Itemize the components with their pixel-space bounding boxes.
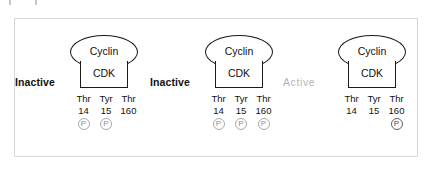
phosphate-icon: P (235, 118, 247, 130)
residue-tyr15: Tyr 15 P (231, 93, 252, 132)
residue-number: 160 (386, 105, 407, 116)
residue-thr160: Thr 160 P (118, 93, 139, 132)
cdk-label: CDK (349, 67, 395, 79)
phosphate-slot: P (118, 118, 139, 132)
cyclin-label: Cyclin (71, 45, 137, 57)
residue-name: Thr (386, 93, 407, 104)
phosphate-slot: P (208, 118, 229, 132)
phosphate-slot: P (341, 118, 362, 132)
cdk-shape: CDK (215, 61, 263, 88)
residue-row: Thr 14 P Tyr 15 P Thr 160 P (73, 93, 139, 132)
residue-thr14: Thr 14 P (73, 93, 94, 132)
scan-artifacts (0, 0, 425, 8)
residue-name: Thr (253, 93, 274, 104)
activity-state-label: Active (283, 76, 345, 88)
residue-number: 14 (73, 105, 94, 116)
residue-tyr15: Tyr 15 P (96, 93, 117, 132)
residue-name: Thr (73, 93, 94, 104)
activity-state-label: Inactive (150, 76, 212, 88)
phosphate-icon: P (258, 118, 270, 130)
phosphate-slot: P (253, 118, 274, 132)
residue-name: Tyr (96, 93, 117, 104)
phosphate-icon: P (100, 118, 112, 130)
scan-artifact-mark (9, 0, 11, 5)
cdk-label: CDK (216, 67, 262, 79)
phosphate-slot: P (386, 118, 407, 132)
cyclin-label: Cyclin (206, 45, 272, 57)
cdk-cyclin-complex: Inactive Cyclin CDK Thr 14 P Tyr 15 P (15, 19, 155, 158)
cdk-shape: CDK (80, 61, 128, 88)
phosphate-slot: P (96, 118, 117, 132)
residue-thr14: Thr 14 P (341, 93, 362, 132)
cdk-shape: CDK (348, 61, 396, 88)
residue-number: 14 (208, 105, 229, 116)
phosphate-slot: P (231, 118, 252, 132)
residue-tyr15: Tyr 15 P (364, 93, 385, 132)
residue-number: 160 (118, 105, 139, 116)
cdk-label: CDK (81, 67, 127, 79)
residue-number: 15 (231, 105, 252, 116)
residue-thr14: Thr 14 P (208, 93, 229, 132)
residue-number: 14 (341, 105, 362, 116)
residue-number: 15 (96, 105, 117, 116)
scan-artifact-mark (35, 0, 37, 5)
phosphate-slot: P (73, 118, 94, 132)
phosphate-icon: P (391, 118, 403, 130)
residue-row: Thr 14 P Tyr 15 P Thr 160 P (341, 93, 407, 132)
residue-name: Thr (118, 93, 139, 104)
residue-number: 160 (253, 105, 274, 116)
phosphate-icon: P (213, 118, 225, 130)
residue-name: Tyr (231, 93, 252, 104)
cdk-cyclin-complex: Inactive Cyclin CDK Thr 14 P Tyr 15 P (150, 19, 290, 158)
residue-name: Thr (341, 93, 362, 104)
phosphate-slot: P (364, 118, 385, 132)
residue-name: Tyr (364, 93, 385, 104)
residue-thr160: Thr 160 P (386, 93, 407, 132)
figure-frame: Inactive Cyclin CDK Thr 14 P Tyr 15 P (14, 18, 418, 157)
residue-name: Thr (208, 93, 229, 104)
phosphate-icon: P (78, 118, 90, 130)
cdk-cyclin-complex: Active Cyclin CDK Thr 14 P Tyr 15 P (283, 19, 423, 158)
residue-thr160: Thr 160 P (253, 93, 274, 132)
residue-row: Thr 14 P Tyr 15 P Thr 160 P (208, 93, 274, 132)
residue-number: 15 (364, 105, 385, 116)
cyclin-label: Cyclin (339, 45, 405, 57)
activity-state-label: Inactive (15, 76, 77, 88)
